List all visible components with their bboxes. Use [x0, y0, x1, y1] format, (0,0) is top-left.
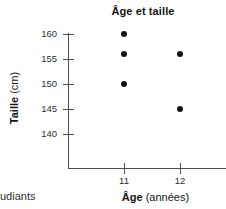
- y-axis-title-unit: (cm): [8, 72, 20, 94]
- y-axis-tick-label: 140: [31, 129, 57, 139]
- x-axis-title: Âge (années): [85, 191, 226, 203]
- x-axis-tick: [180, 163, 181, 174]
- y-axis-tick: [63, 59, 74, 60]
- x-axis-title-strong: Âge: [122, 191, 143, 203]
- x-axis-tick: [124, 163, 125, 174]
- x-axis-tick-label: 12: [165, 175, 195, 186]
- y-axis-tick: [63, 84, 74, 85]
- y-axis-tick: [63, 134, 74, 135]
- y-axis-title-strong: Taille: [8, 97, 20, 124]
- data-point: [121, 31, 127, 37]
- y-axis-title: Taille (cm): [8, 53, 20, 143]
- y-axis-tick-label: 155: [31, 54, 57, 64]
- data-point: [121, 51, 127, 57]
- chart-title: Âge et taille: [60, 5, 226, 17]
- data-point: [177, 51, 183, 57]
- x-axis-title-unit: (années): [146, 191, 189, 203]
- x-axis-tick-label: 11: [109, 175, 139, 186]
- y-axis-tick: [63, 109, 74, 110]
- y-axis-tick-label: 160: [31, 29, 57, 39]
- cropped-caption-fragment: udiants: [0, 190, 35, 202]
- x-axis-line: [68, 168, 226, 169]
- y-axis-tick: [63, 34, 74, 35]
- y-axis-tick-label: 145: [31, 104, 57, 114]
- data-point: [121, 81, 127, 87]
- y-axis-tick-label: 150: [31, 79, 57, 89]
- data-point: [177, 106, 183, 112]
- scatter-chart: Âge et taille 160 155 150 145 140 11 12 …: [0, 0, 226, 209]
- y-axis-line: [68, 33, 69, 169]
